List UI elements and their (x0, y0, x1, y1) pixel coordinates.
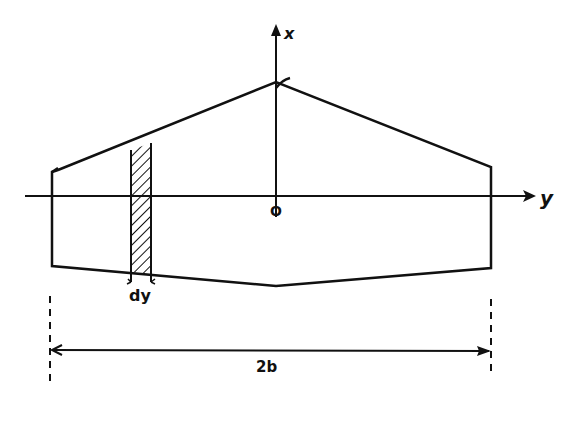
origin-label: O (270, 203, 282, 219)
wing-planform-diagram: x y O dy 2b (0, 0, 573, 421)
dy-label: dy (129, 286, 151, 305)
span-right-arrow-icon (477, 346, 491, 356)
x-axis-arrow-icon (271, 24, 281, 36)
y-axis-label: y (540, 186, 554, 210)
elemental-strip (131, 143, 151, 282)
y-axis (25, 190, 536, 202)
x-axis (271, 24, 290, 217)
x-axis-label: x (283, 24, 295, 43)
span-label: 2b (256, 358, 277, 376)
wing-outline (52, 82, 491, 286)
